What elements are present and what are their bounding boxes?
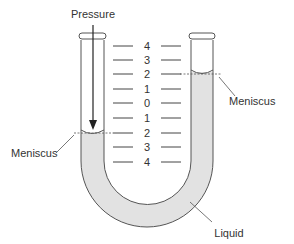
right-tube-lip: [189, 33, 215, 39]
scale-tick-label: 1: [144, 112, 150, 124]
scale-tick-label: 2: [144, 68, 150, 80]
scale-row: 0: [113, 97, 181, 109]
scale-row: 2: [113, 68, 181, 80]
scale-row: 4: [113, 156, 181, 168]
scale-tick-label: 4: [144, 40, 150, 52]
scale-row: 1: [113, 112, 181, 124]
liquid-label: Liquid: [214, 227, 243, 239]
pressure-arrow-head-icon: [89, 120, 97, 130]
scale-row: 3: [113, 141, 181, 153]
meniscus-right-leader: [219, 77, 235, 96]
scale: 4 3 2 1 0 1 2: [113, 40, 181, 168]
scale-tick-label: 4: [144, 156, 150, 168]
manometer-diagram: Pressure Meniscus Meniscus Liquid 4 3 2 …: [0, 0, 294, 244]
scale-tick-label: 3: [144, 54, 150, 66]
scale-tick-label: 0: [144, 97, 150, 109]
meniscus-left-leader: [56, 135, 74, 153]
pressure-label: Pressure: [71, 8, 115, 20]
scale-row: 1: [113, 83, 181, 95]
liquid-leader: [190, 202, 212, 222]
scale-tick-label: 3: [144, 141, 150, 153]
meniscus-label-right: Meniscus: [229, 95, 276, 107]
scale-row: 3: [113, 54, 181, 66]
scale-tick-label: 2: [144, 127, 150, 139]
scale-tick-label: 1: [144, 83, 150, 95]
meniscus-label-left: Meniscus: [11, 147, 58, 159]
scale-row: 4: [113, 40, 181, 52]
scale-row: 2: [113, 127, 181, 139]
